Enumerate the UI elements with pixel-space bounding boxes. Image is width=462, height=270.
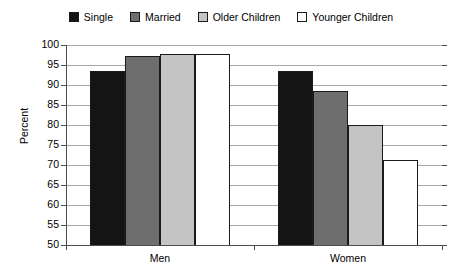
y-axis-tick-right — [442, 65, 447, 66]
bar — [383, 160, 418, 246]
bar — [313, 91, 348, 246]
legend-label-married: Married — [145, 12, 181, 23]
y-axis-tick-right — [442, 165, 447, 166]
y-axis-tick-label: 60 — [19, 199, 59, 210]
y-axis-tick-right — [442, 185, 447, 186]
bar — [125, 56, 160, 246]
x-axis-tick — [66, 245, 67, 250]
legend-label-younger-children: Younger Children — [312, 12, 393, 23]
legend-label-older-children: Older Children — [213, 12, 281, 23]
y-axis-tick-label: 50 — [19, 239, 59, 250]
y-axis-tick-label: 70 — [19, 159, 59, 170]
bar — [195, 54, 230, 246]
x-axis-tick — [254, 245, 255, 250]
y-axis-tick-right — [442, 145, 447, 146]
y-axis-line — [66, 45, 67, 246]
legend-item-older-children: Older Children — [198, 12, 281, 23]
legend-item-married: Married — [130, 12, 181, 23]
y-axis-tick-right — [442, 105, 447, 106]
legend-swatch-single — [69, 12, 79, 22]
bar — [160, 54, 195, 246]
bar — [278, 71, 313, 246]
bar — [90, 71, 125, 246]
legend-swatch-younger-children — [297, 12, 307, 22]
x-axis-category-label: Women — [254, 252, 442, 264]
y-axis-tick-label: 55 — [19, 219, 59, 230]
y-axis-tick-label: 90 — [19, 79, 59, 90]
legend-item-single: Single — [69, 12, 113, 23]
y-axis-tick-label: 65 — [19, 179, 59, 190]
legend-swatch-married — [130, 12, 140, 22]
y-axis-tick-label: 75 — [19, 139, 59, 150]
legend-item-younger-children: Younger Children — [297, 12, 393, 23]
legend-label-single: Single — [84, 12, 113, 23]
y-axis-tick-right — [442, 225, 447, 226]
bar-chart: Single Married Older Children Younger Ch… — [0, 0, 462, 270]
y-axis-tick-right — [442, 205, 447, 206]
y-axis-tick-right — [442, 45, 447, 46]
chart-legend: Single Married Older Children Younger Ch… — [0, 6, 462, 28]
y-axis-tick-right — [442, 125, 447, 126]
y-axis-tick-label: 80 — [19, 119, 59, 130]
y-axis-tick-label: 95 — [19, 59, 59, 70]
gridline — [66, 65, 442, 66]
bar — [348, 125, 383, 246]
gridline — [66, 45, 442, 46]
x-axis-tick — [442, 245, 443, 250]
y-axis-tick-label: 85 — [19, 99, 59, 110]
x-axis-category-label: Men — [66, 252, 254, 264]
legend-swatch-older-children — [198, 12, 208, 22]
plot-area — [66, 45, 442, 245]
y-axis-tick-right — [442, 85, 447, 86]
y-axis-tick-label: 100 — [19, 39, 59, 50]
